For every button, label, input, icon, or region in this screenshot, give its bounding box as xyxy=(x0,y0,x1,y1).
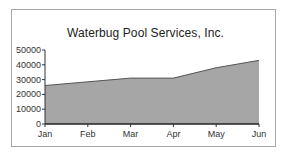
y-tick-label: 20000 xyxy=(16,89,41,99)
y-tick-label: 10000 xyxy=(16,104,41,114)
y-tick-label: 0 xyxy=(36,119,41,129)
area-series xyxy=(45,60,259,124)
y-tick-label: 40000 xyxy=(16,60,41,70)
y-tick-label: 30000 xyxy=(16,75,41,85)
x-tick-label: Jun xyxy=(252,129,267,139)
y-tick-label: 50000 xyxy=(16,45,41,55)
x-tick-label: Mar xyxy=(123,129,139,139)
x-tick-label: Feb xyxy=(80,129,96,139)
x-axis-ticks: JanFebMarAprMayJun xyxy=(38,124,267,139)
x-tick-label: Jan xyxy=(38,129,53,139)
x-tick-label: May xyxy=(208,129,226,139)
area-chart-plot: 01000020000300004000050000 JanFebMarAprM… xyxy=(0,0,291,156)
x-tick-label: Apr xyxy=(166,129,180,139)
y-axis-ticks: 01000020000300004000050000 xyxy=(16,45,45,129)
